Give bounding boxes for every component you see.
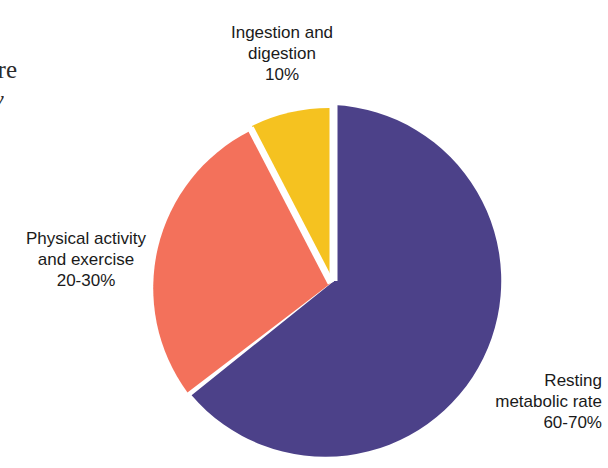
pie-chart-figure: are y Ingestion and digestion 10% Physic… [0,0,608,468]
pie-chart: Ingestion and digestion 10% Physical act… [0,0,608,468]
pie-label-resting-metabolic-rate: Resting metabolic rate 60-70% [424,370,602,433]
pie-label-ingestion-digestion: Ingestion and digestion 10% [196,22,368,85]
pie-label-physical-activity: Physical activity and exercise 20-30% [2,228,170,291]
